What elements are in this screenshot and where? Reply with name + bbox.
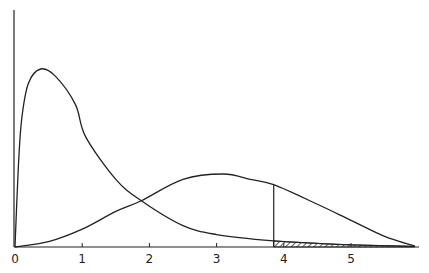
curve-2 [15,174,415,247]
plot-area [0,0,429,273]
x-tick-label: 2 [146,252,154,266]
chart: 012345 [0,0,429,273]
x-tick-label: 5 [347,252,355,266]
x-tick-label: 1 [78,252,86,266]
curve-1 [15,69,415,247]
x-tick-label: 4 [280,252,288,266]
x-tick-label: 0 [11,252,19,266]
x-tick-label: 3 [213,252,221,266]
